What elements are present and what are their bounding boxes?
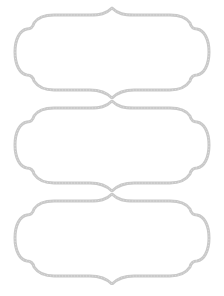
decorative-frame-icon bbox=[0, 192, 224, 285]
label-sheet bbox=[0, 0, 224, 296]
label-frame-1 bbox=[0, 6, 224, 99]
label-frame-3 bbox=[0, 192, 224, 285]
decorative-frame-icon bbox=[0, 6, 224, 99]
decorative-frame-icon bbox=[0, 99, 224, 192]
label-frame-2 bbox=[0, 99, 224, 192]
